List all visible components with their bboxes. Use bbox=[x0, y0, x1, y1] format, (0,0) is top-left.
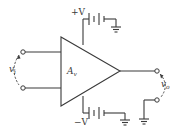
positive-supply-label: +V bbox=[71, 7, 86, 17]
output-terminal-top bbox=[155, 69, 159, 73]
input-voltage-label: vi bbox=[9, 64, 16, 75]
output-ground-icon bbox=[139, 119, 149, 124]
input-terminal-bottom bbox=[21, 86, 25, 90]
amplifier-gain-label: Av bbox=[66, 66, 78, 77]
amplifier-circuit-diagram: Av vi +V −V bbox=[0, 0, 173, 135]
negative-ground-icon bbox=[120, 120, 130, 125]
negative-battery-icon bbox=[89, 107, 104, 119]
positive-battery-icon bbox=[89, 13, 104, 25]
input-terminal-top bbox=[21, 50, 25, 54]
output-terminal-bottom bbox=[155, 98, 159, 102]
negative-supply-label: −V bbox=[74, 117, 89, 127]
output-voltage-label: vo bbox=[161, 79, 170, 90]
positive-ground-icon bbox=[111, 27, 121, 32]
